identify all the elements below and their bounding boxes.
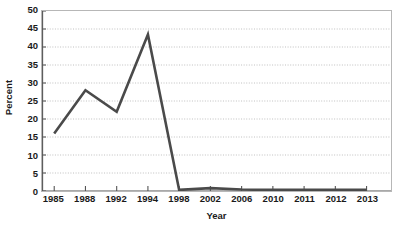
y-tick-label: 10 — [27, 151, 38, 161]
y-tick-label: 50 — [27, 5, 38, 15]
data-series — [54, 34, 366, 190]
y-tick-label: 35 — [27, 60, 38, 70]
x-tick-label: 2011 — [294, 194, 315, 204]
x-tick-label: 2012 — [325, 194, 346, 204]
y-tick-label: 15 — [27, 133, 38, 143]
x-axis-title: Year — [41, 210, 392, 221]
x-tick-label: 1992 — [106, 194, 127, 204]
data-line — [54, 34, 366, 190]
x-tick-label: 2010 — [263, 194, 284, 204]
x-tick-label: 2002 — [200, 194, 221, 204]
y-tick-label: 25 — [27, 96, 38, 106]
y-tick-label: 40 — [27, 42, 38, 52]
line-chart: Percent 05101520253035404550 19851988199… — [0, 0, 402, 234]
x-tick-label: 2013 — [357, 194, 378, 204]
x-tick-label: 1998 — [168, 194, 189, 204]
gridlines — [42, 11, 391, 191]
y-tick-label: 30 — [27, 78, 38, 88]
y-tick-label: 5 — [33, 169, 38, 179]
y-tick-label: 0 — [33, 187, 38, 197]
plot-area — [41, 10, 392, 192]
plot-canvas — [42, 11, 391, 191]
x-tick-label: 2006 — [231, 194, 252, 204]
y-axis-tick-labels: 05101520253035404550 — [16, 10, 38, 192]
y-axis-title-label: Percent — [4, 80, 15, 116]
y-tick-label: 45 — [27, 23, 38, 33]
x-axis-tick-labels: 1985198819921994199820022006201020112012… — [41, 194, 392, 210]
x-tick-label: 1994 — [137, 194, 158, 204]
x-tick-label: 1988 — [74, 194, 95, 204]
y-axis-title: Percent — [2, 0, 16, 195]
x-tick-label: 1985 — [43, 194, 64, 204]
y-tick-label: 20 — [27, 114, 38, 124]
